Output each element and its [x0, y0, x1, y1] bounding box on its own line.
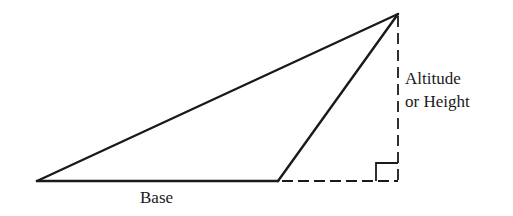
- triangle-long-side: [37, 14, 398, 181]
- altitude-label-line1: Altitude: [405, 69, 461, 88]
- triangle-short-side: [278, 14, 398, 181]
- base-label: Base: [140, 188, 173, 207]
- altitude-label-line2: or Height: [405, 92, 470, 111]
- right-angle-marker: [376, 163, 398, 181]
- triangle-diagram: Altitude or Height Base: [0, 0, 513, 216]
